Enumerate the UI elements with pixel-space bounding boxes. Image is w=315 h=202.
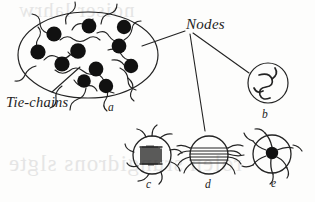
label-nodes: Nodes (186, 16, 225, 33)
panel-d (177, 136, 244, 174)
panel-letter-e: e (271, 177, 276, 189)
panel-letter-a: a (108, 101, 114, 113)
panel-b (248, 63, 288, 103)
figure-page: noiser lahrw rolen srungidrons slgte (0, 0, 315, 202)
panel-e (242, 129, 302, 184)
label-tie-chains: Tie-chains (6, 94, 68, 111)
panel-letter-d: d (205, 178, 211, 190)
leader-lines-nodes (142, 31, 249, 131)
panel-letter-c: c (146, 178, 151, 190)
panel-letter-b: b (262, 108, 268, 120)
panel-c (125, 125, 182, 184)
